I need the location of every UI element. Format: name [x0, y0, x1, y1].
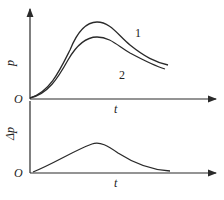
bottom-x-label: t	[114, 176, 118, 190]
bottom-origin-label: O	[14, 166, 23, 180]
top-y-label: p	[3, 60, 17, 67]
curve-2-label: 2	[119, 68, 125, 82]
bottom-y-label: Δp	[3, 127, 17, 141]
curve-2	[30, 37, 165, 98]
curve-1-label: 1	[135, 26, 141, 40]
delta-p-curve	[33, 143, 170, 172]
top-origin-label: O	[14, 92, 23, 106]
pressure-diagram: 1 2 p O t Δp O t	[0, 0, 224, 200]
top-x-label: t	[114, 102, 118, 116]
